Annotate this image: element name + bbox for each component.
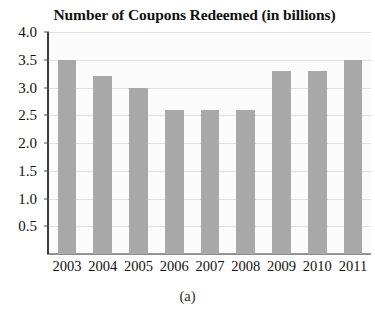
bar [58, 60, 77, 254]
bar-slot [264, 32, 300, 254]
x-axis-tick-label: 2009 [264, 258, 300, 275]
plot-area [49, 32, 371, 254]
bar-slot [121, 32, 157, 254]
y-axis-tick [44, 170, 49, 171]
y-axis-tick-label: 0.5 [18, 218, 37, 235]
bar [201, 110, 220, 254]
y-axis-tick [44, 59, 49, 60]
chart-title: Number of Coupons Redeemed (in billions) [0, 6, 375, 24]
x-axis-line [47, 254, 371, 255]
y-axis-tick-label: 2.0 [18, 135, 37, 152]
x-axis-tick-label: 2008 [228, 258, 264, 275]
x-axis-tick-label: 2011 [335, 258, 371, 275]
y-axis-tick-label: 1.5 [18, 162, 37, 179]
x-axis-tick-label: 2004 [85, 258, 121, 275]
x-axis-tick-label: 2003 [49, 258, 85, 275]
x-axis-tick-label: 2005 [121, 258, 157, 275]
x-axis-labels: 200320042005200620072008200920102011 [49, 258, 371, 280]
y-axis-labels: 4.03.53.02.52.01.51.00.5 [0, 32, 44, 254]
bar [165, 110, 184, 254]
bar [129, 88, 148, 255]
y-axis-tick [44, 115, 49, 116]
bar-slot [192, 32, 228, 254]
bar [344, 60, 363, 254]
y-axis-tick [44, 143, 49, 144]
x-axis-tick-label: 2007 [192, 258, 228, 275]
plot-region: 4.03.53.02.52.01.51.00.5 [0, 32, 375, 254]
y-axis-tick [44, 87, 49, 88]
bar [272, 71, 291, 254]
y-axis-tick [44, 32, 49, 33]
y-axis-tick-label: 3.0 [18, 79, 37, 96]
bar-slot [335, 32, 371, 254]
figure-panel: Number of Coupons Redeemed (in billions)… [0, 0, 375, 328]
bar-series [49, 32, 371, 254]
x-axis-tick-label: 2010 [299, 258, 335, 275]
bar-slot [49, 32, 85, 254]
y-axis-tick-label: 1.0 [18, 190, 37, 207]
bar [308, 71, 327, 254]
bar [236, 110, 255, 254]
y-axis-tick-label: 2.5 [18, 107, 37, 124]
bar [93, 76, 112, 254]
bar-slot [156, 32, 192, 254]
x-axis-tick-label: 2006 [156, 258, 192, 275]
y-axis-tick-label: 4.0 [18, 24, 37, 41]
bar-slot [299, 32, 335, 254]
y-axis-tick-label: 3.5 [18, 51, 37, 68]
bar-slot [85, 32, 121, 254]
y-axis-tick [44, 226, 49, 227]
bar-slot [228, 32, 264, 254]
figure-caption: (a) [0, 288, 375, 305]
y-axis-tick [44, 198, 49, 199]
